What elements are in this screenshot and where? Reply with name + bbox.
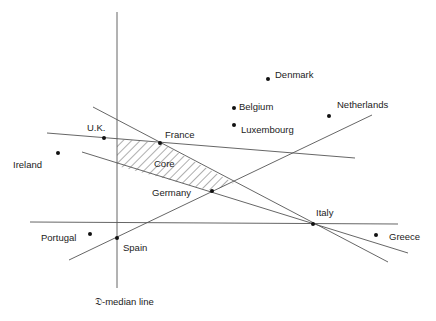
dot-uk: [102, 136, 106, 140]
label-belgium: Belgium: [239, 101, 273, 112]
dot-italy: [311, 222, 315, 226]
label-core: Core: [154, 158, 175, 169]
dot-netherlands: [327, 114, 331, 118]
median-line-spain-netherlands: [69, 115, 372, 260]
label-uk: U.K.: [87, 122, 105, 133]
median-line-diagram: Denmark Belgium Luxembourg Netherlands U…: [0, 0, 436, 321]
label-netherlands: Netherlands: [337, 99, 388, 110]
axis-label: 𝔇-median line: [95, 296, 154, 307]
dot-luxembourg: [232, 123, 236, 127]
dot-spain: [115, 236, 119, 240]
label-portugal: Portugal: [41, 232, 76, 243]
label-italy: Italy: [316, 207, 334, 218]
label-denmark: Denmark: [275, 69, 314, 80]
median-line-germany-italy: [82, 152, 408, 253]
dot-denmark: [266, 77, 270, 81]
label-ireland: Ireland: [13, 159, 42, 170]
dot-greece: [374, 233, 378, 237]
dot-portugal: [88, 232, 92, 236]
label-luxembourg: Luxembourg: [241, 124, 294, 135]
median-line-horizontal: [30, 222, 398, 224]
dot-ireland: [56, 151, 60, 155]
label-spain: Spain: [123, 242, 147, 253]
dot-germany: [210, 189, 214, 193]
label-greece: Greece: [389, 231, 420, 242]
label-germany: Germany: [152, 187, 191, 198]
dot-belgium: [232, 106, 236, 110]
dot-france: [158, 141, 162, 145]
label-france: France: [165, 129, 195, 140]
